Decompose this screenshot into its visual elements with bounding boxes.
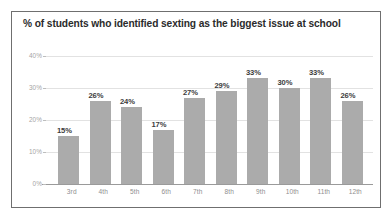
bar[interactable]	[121, 107, 142, 184]
bar-slot: 29%	[214, 12, 246, 184]
x-axis-tick-label: 4th	[88, 188, 120, 195]
bar-slot: 33%	[308, 12, 340, 184]
axis-baseline	[42, 184, 373, 185]
bar-value-label: 15%	[56, 126, 88, 135]
x-axis-tick-label: 9th	[245, 188, 277, 195]
y-axis-tick-mark	[43, 56, 46, 57]
bar-value-label: 29%	[214, 81, 246, 90]
y-axis-tick-mark	[43, 120, 46, 121]
y-axis-tick-mark	[43, 184, 46, 185]
bar-slot: 33%	[245, 12, 277, 184]
y-axis-tick-label: 40%	[18, 52, 42, 59]
y-axis-tick-label: 30%	[18, 84, 42, 91]
y-axis-tick-label: 10%	[18, 148, 42, 155]
bar-series: 15%26%24%17%27%29%33%30%33%26%	[56, 12, 371, 184]
bar-slot: 17%	[151, 12, 183, 184]
bar-value-label: 26%	[340, 91, 372, 100]
plot-area: 0%10%20%30%40% 15%26%24%17%27%29%33%30%3…	[12, 12, 382, 209]
y-axis-tick-label: 0%	[18, 180, 42, 187]
bar[interactable]	[310, 78, 331, 184]
bar-value-label: 24%	[119, 97, 151, 106]
bar-value-label: 26%	[88, 91, 120, 100]
bar-value-label: 17%	[151, 120, 183, 129]
bar-slot: 24%	[119, 12, 151, 184]
bar-slot: 30%	[277, 12, 309, 184]
x-axis-tick-label: 11th	[308, 188, 340, 195]
bar[interactable]	[247, 78, 268, 184]
x-axis-tick-label: 6th	[151, 188, 183, 195]
bar-value-label: 30%	[277, 78, 309, 87]
x-axis-tick-label: 8th	[214, 188, 246, 195]
bar-slot: 26%	[340, 12, 372, 184]
bar-value-label: 33%	[308, 68, 340, 77]
x-axis-tick-label: 3rd	[56, 188, 88, 195]
y-axis-tick-label: 20%	[18, 116, 42, 123]
x-axis-tick-labels: 3rd4th5th6th7th8th9th10th11th12th	[56, 188, 371, 202]
x-axis-tick-label: 5th	[119, 188, 151, 195]
bar[interactable]	[153, 130, 174, 184]
chart-card: % of students who identified sexting as …	[11, 11, 381, 208]
x-axis-tick-label: 12th	[340, 188, 372, 195]
bar[interactable]	[90, 101, 111, 184]
x-axis-tick-label: 7th	[182, 188, 214, 195]
bar[interactable]	[279, 88, 300, 184]
bar-slot: 15%	[56, 12, 88, 184]
bar-slot: 26%	[88, 12, 120, 184]
bar[interactable]	[184, 98, 205, 184]
bar[interactable]	[342, 101, 363, 184]
bar-value-label: 33%	[245, 68, 277, 77]
y-axis-tick-mark	[43, 152, 46, 153]
x-axis-tick-label: 10th	[277, 188, 309, 195]
y-axis-tick-mark	[43, 88, 46, 89]
bar[interactable]	[216, 91, 237, 184]
bar-value-label: 27%	[182, 88, 214, 97]
bar-slot: 27%	[182, 12, 214, 184]
bar[interactable]	[58, 136, 79, 184]
